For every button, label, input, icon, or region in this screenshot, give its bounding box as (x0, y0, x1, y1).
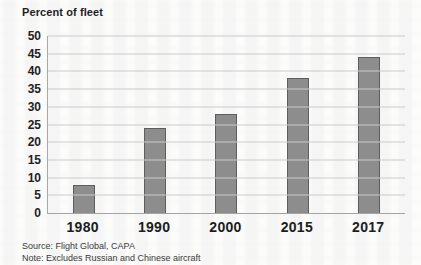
gridline-30 (48, 106, 405, 107)
y-tick-label-45: 45 (0, 48, 41, 60)
gridline-5 (48, 195, 405, 196)
y-tick-label-10: 10 (0, 172, 41, 184)
x-tick-label-1990: 1990 (118, 219, 189, 235)
y-tick-label-25: 25 (0, 119, 41, 131)
y-tick-label-0: 0 (0, 207, 41, 219)
gridline-40 (48, 71, 405, 72)
gridline-15 (48, 159, 405, 160)
plot-area (47, 36, 405, 214)
y-tick-label-20: 20 (0, 136, 41, 148)
gridline-50 (48, 36, 405, 37)
x-tick-label-2015: 2015 (261, 219, 332, 235)
gridline-45 (48, 53, 405, 54)
bar-1980 (73, 185, 95, 213)
scanned-chart-page: Percent of fleet 05101520253035404550 19… (0, 0, 421, 265)
chart-footer: Source: Flight Global, CAPA Note: Exclud… (22, 240, 201, 264)
bar-2000 (215, 114, 237, 213)
x-tick-label-2000: 2000 (190, 219, 261, 235)
y-axis: 05101520253035404550 (0, 36, 41, 213)
gridline-20 (48, 142, 405, 143)
y-tick-label-15: 15 (0, 154, 41, 166)
x-axis: 19801990200020152017 (47, 219, 404, 235)
y-tick-label-40: 40 (0, 65, 41, 77)
chart-title: Percent of fleet (22, 6, 103, 18)
y-tick-label-50: 50 (0, 30, 41, 42)
gridline-10 (48, 177, 405, 178)
y-tick-label-35: 35 (0, 83, 41, 95)
x-tick-label-2017: 2017 (333, 219, 404, 235)
source-note: Source: Flight Global, CAPA (22, 240, 201, 252)
exclusion-note: Note: Excludes Russian and Chinese aircr… (22, 252, 201, 264)
gridline-25 (48, 124, 405, 125)
y-tick-label-5: 5 (0, 189, 41, 201)
x-tick-label-1980: 1980 (47, 219, 118, 235)
gridline-35 (48, 89, 405, 90)
bar-2017 (358, 57, 380, 213)
bar-2015 (287, 78, 309, 213)
y-tick-label-30: 30 (0, 101, 41, 113)
